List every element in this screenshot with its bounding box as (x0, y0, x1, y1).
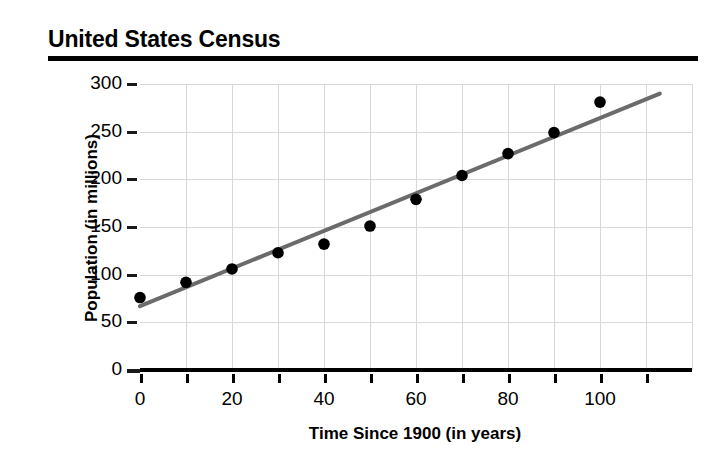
y-tick-mark (127, 369, 140, 373)
x-tick-mark (140, 374, 143, 383)
data-point (180, 276, 192, 288)
x-tick-mark (324, 374, 327, 383)
x-tick-label: 100 (570, 388, 630, 410)
y-tick-mark (127, 178, 137, 181)
y-tick-mark (127, 226, 137, 229)
data-layer (140, 84, 692, 370)
title-block: United States Census (48, 26, 696, 52)
x-tick-label: 60 (386, 388, 446, 410)
y-tick-mark (127, 131, 137, 134)
page-title: United States Census (48, 26, 696, 52)
data-point (134, 292, 146, 304)
census-scatter-figure: United States Census Population (in mill… (0, 0, 708, 472)
x-axis-spine (140, 368, 692, 372)
data-point (272, 247, 284, 259)
x-tick-mark (646, 374, 649, 383)
data-point (594, 96, 606, 108)
gridline-vertical (692, 84, 693, 370)
data-point (548, 127, 560, 139)
data-point (410, 194, 422, 206)
x-tick-mark (278, 374, 281, 383)
data-point (226, 263, 238, 275)
x-tick-mark (554, 374, 557, 383)
data-point-markers (134, 96, 606, 303)
y-tick-label: 300 (66, 72, 122, 94)
y-tick-label: 0 (66, 358, 122, 380)
y-tick-mark (127, 274, 137, 277)
y-tick-label: 200 (66, 167, 122, 189)
x-tick-label: 40 (294, 388, 354, 410)
x-tick-mark (370, 374, 373, 383)
x-tick-mark (600, 374, 603, 383)
title-underline-rule (48, 56, 698, 61)
x-tick-mark (186, 374, 189, 383)
y-tick-label: 50 (66, 310, 122, 332)
x-tick-label: 80 (478, 388, 538, 410)
x-tick-mark (508, 374, 511, 383)
x-tick-mark (232, 374, 235, 383)
trend-line (140, 94, 660, 307)
y-tick-label: 150 (66, 215, 122, 237)
data-point (502, 148, 514, 160)
x-tick-mark (416, 374, 419, 383)
data-point (364, 220, 376, 232)
x-tick-label: 20 (202, 388, 262, 410)
y-tick-label: 100 (66, 263, 122, 285)
x-tick-label: 0 (110, 388, 170, 410)
data-point (318, 238, 330, 250)
data-point (456, 170, 468, 182)
y-tick-mark (127, 83, 137, 86)
plot-area (140, 84, 692, 370)
y-tick-label: 250 (66, 120, 122, 142)
x-tick-mark (462, 374, 465, 383)
x-axis-title: Time Since 1900 (in years) (140, 424, 690, 444)
y-tick-mark (127, 321, 137, 324)
